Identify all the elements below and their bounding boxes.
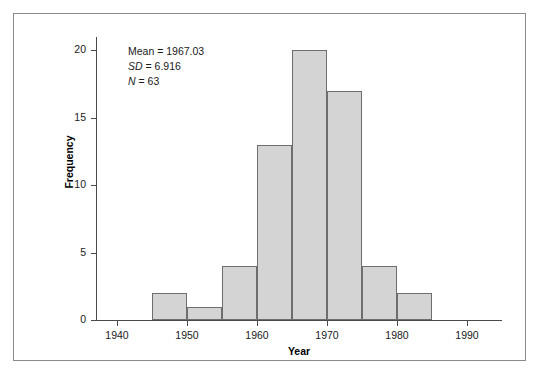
histogram-bar: [257, 145, 292, 320]
y-tick-label: 20: [56, 43, 86, 55]
mean-stat: Mean = 1967.03: [128, 44, 204, 59]
mean-text: Mean = 1967.03: [128, 45, 204, 57]
n-value: = 63: [136, 75, 160, 87]
x-tick-label: 1950: [165, 329, 209, 341]
sd-stat: SD = 6.916: [128, 59, 204, 74]
x-tick-label: 1980: [375, 329, 419, 341]
x-tick-mark: [467, 321, 468, 326]
x-tick-label: 1940: [95, 329, 139, 341]
statistics-annotation: Mean = 1967.03 SD = 6.916 N = 63: [128, 44, 204, 89]
histogram-bar: [222, 266, 257, 320]
y-tick-mark: [91, 50, 96, 51]
x-tick-mark: [397, 321, 398, 326]
n-symbol: N: [128, 75, 136, 87]
histogram-bar: [362, 266, 397, 320]
x-tick-mark: [187, 321, 188, 326]
sd-symbol: SD: [128, 60, 143, 72]
y-tick-mark: [91, 253, 96, 254]
sd-value: = 6.916: [143, 60, 181, 72]
y-tick-label: 0: [56, 313, 86, 325]
x-tick-mark: [117, 321, 118, 326]
x-tick-label: 1970: [305, 329, 349, 341]
y-tick-mark: [91, 118, 96, 119]
y-tick-mark: [91, 185, 96, 186]
histogram-bar: [327, 91, 362, 320]
n-stat: N = 63: [128, 74, 204, 89]
histogram-plot-area: 05101520 194019501960197019801990 Freque…: [0, 0, 540, 375]
y-tick-mark: [91, 320, 96, 321]
x-axis-title: Year: [96, 345, 502, 357]
histogram-bar: [397, 293, 432, 320]
y-tick-label: 5: [56, 246, 86, 258]
histogram-bar: [292, 50, 327, 320]
histogram-bar: [152, 293, 187, 320]
x-tick-label: 1990: [445, 329, 489, 341]
y-axis-title: Frequency: [63, 92, 75, 232]
x-tick-mark: [257, 321, 258, 326]
x-tick-label: 1960: [235, 329, 279, 341]
x-tick-mark: [327, 321, 328, 326]
histogram-bar: [187, 307, 222, 320]
